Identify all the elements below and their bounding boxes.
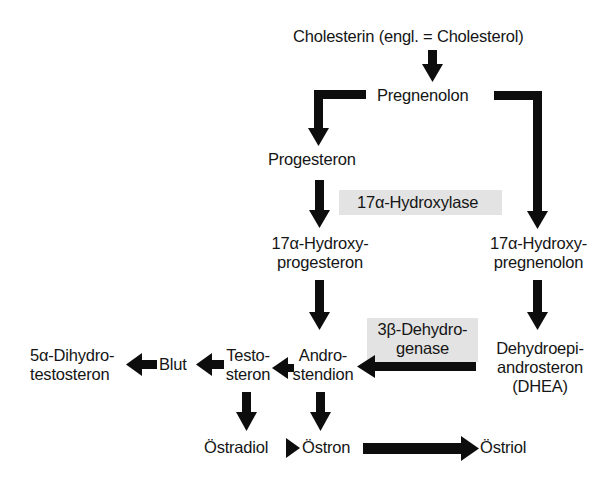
arrow-down-icon xyxy=(310,392,331,431)
arrow-left-icon xyxy=(357,355,476,378)
node-blut: Blut xyxy=(159,355,187,374)
node-androstendion: Andro- stendion xyxy=(288,346,358,384)
node-testosteron-line2: steron xyxy=(218,365,278,384)
node-17a-hydroxyprogesteron-line2: progesteron xyxy=(250,253,390,272)
node-17a-hydroxypregnenolon: 17α-Hydroxy- pregnenolon xyxy=(466,234,611,272)
node-5a-dihydrotestosteron-line2: testosteron xyxy=(30,365,114,384)
node-dhea: Dehydroepi- androsteron (DHEA) xyxy=(470,339,610,396)
enzyme-hydroxylase: 17α-Hydroxylase xyxy=(357,193,478,212)
arrow-down-icon xyxy=(309,280,330,330)
node-oestradiol: Östradiol xyxy=(204,438,268,457)
node-dhea-line1: Dehydroepi- xyxy=(470,339,610,358)
node-oestriol: Östriol xyxy=(480,438,526,457)
node-17a-hydroxypregnenolon-line1: 17α-Hydroxy- xyxy=(466,234,611,253)
node-pregnenolon: Pregnenolon xyxy=(377,86,468,105)
node-17a-hydroxyprogesteron-line1: 17α-Hydroxy- xyxy=(250,234,390,253)
node-androstendion-line2: stendion xyxy=(288,365,358,384)
arrow-elbow-left-icon xyxy=(308,90,366,146)
node-androstendion-line1: Andro- xyxy=(288,346,358,365)
enzyme-dehydrogenase: 3β-Dehydro- genase xyxy=(367,320,478,358)
node-17a-hydroxyprogesteron: 17α-Hydroxy- progesteron xyxy=(250,234,390,272)
arrow-left-icon xyxy=(126,353,157,376)
enzyme-dehydrogenase-line1: 3β-Dehydro- xyxy=(367,320,478,339)
node-dhea-line3: (DHEA) xyxy=(470,377,610,396)
node-testosteron: Testo- steron xyxy=(218,346,278,384)
arrow-down-icon xyxy=(309,180,330,228)
node-dhea-line2: androsteron xyxy=(470,358,610,377)
node-cholesterin: Cholesterin (engl. = Cholesterol) xyxy=(293,27,523,46)
node-5a-dihydrotestosteron-line1: 5α-Dihydro- xyxy=(30,346,114,365)
arrow-right-icon xyxy=(286,438,300,458)
node-progesteron: Progesteron xyxy=(268,150,356,169)
node-17a-hydroxypregnenolon-line2: pregnenolon xyxy=(466,253,611,272)
arrow-right-icon xyxy=(363,436,479,461)
node-5a-dihydrotestosteron: 5α-Dihydro- testosteron xyxy=(30,346,114,384)
arrow-down-icon xyxy=(527,280,548,330)
arrow-down-icon xyxy=(422,50,443,82)
enzyme-dehydrogenase-line2: genase xyxy=(367,339,478,358)
arrow-down-icon xyxy=(236,392,257,431)
node-oestron: Östron xyxy=(302,438,350,457)
arrow-elbow-right-icon xyxy=(494,91,548,229)
node-testosteron-line1: Testo- xyxy=(218,346,278,365)
